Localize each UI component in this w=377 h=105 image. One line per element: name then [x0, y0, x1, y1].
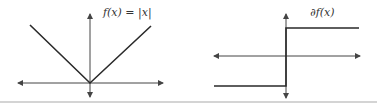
subgradient-step	[214, 28, 359, 86]
left-plot-label: f(x) = |x|	[103, 6, 152, 19]
bottom-divider	[0, 101, 377, 103]
left-plot	[18, 14, 163, 97]
right-plot-label: ∂f(x)	[310, 6, 335, 19]
right-plot	[214, 14, 360, 98]
